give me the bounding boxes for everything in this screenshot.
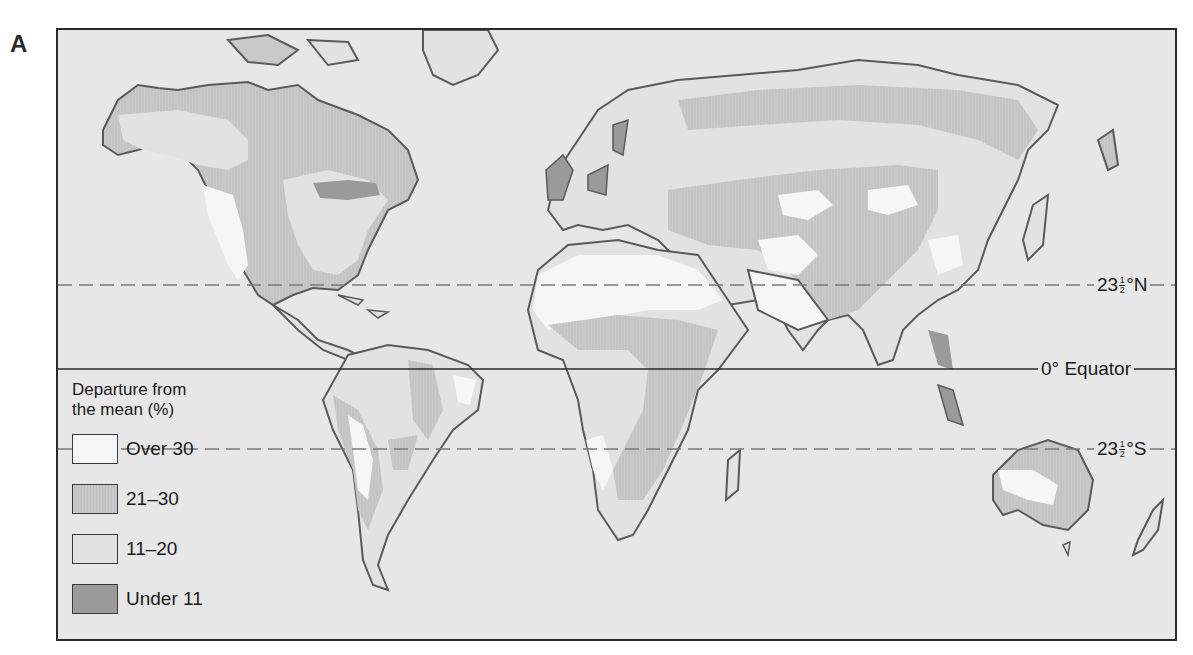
legend-label: 11–20 — [126, 538, 177, 560]
legend-label: 21–30 — [126, 488, 179, 510]
tropic-of-capricorn-label: 2312°S — [1094, 438, 1149, 460]
legend-title-line-1: Departure from — [72, 380, 186, 400]
south-america — [323, 345, 483, 590]
panel-label: A — [10, 30, 27, 58]
legend-item-21-30: 21–30 — [72, 484, 179, 514]
legend-label: Under 11 — [126, 588, 203, 610]
label-suffix: °N — [1126, 274, 1147, 295]
equator-label: 0° Equator — [1038, 358, 1134, 380]
north-america — [103, 30, 498, 360]
legend-item-under-11: Under 11 — [72, 584, 203, 614]
legend-title: Departure from the mean (%) — [72, 380, 186, 420]
label-degrees: 23 — [1097, 438, 1118, 459]
legend-item-over-30: Over 30 — [72, 434, 194, 464]
swatch-over-30 — [72, 434, 118, 464]
swatch-11-20 — [72, 534, 118, 564]
legend-item-11-20: 11–20 — [72, 534, 177, 564]
world-map-frame: 2312°N 0° Equator 2312°S Departure from … — [56, 28, 1177, 641]
legend-title-line-2: the mean (%) — [72, 400, 186, 420]
label-suffix: °S — [1126, 438, 1146, 459]
swatch-under-11 — [72, 584, 118, 614]
tropic-of-cancer-label: 2312°N — [1094, 274, 1150, 296]
swatch-21-30 — [72, 484, 118, 514]
label-degrees: 23 — [1097, 274, 1118, 295]
fraction-half: 12 — [1119, 440, 1125, 459]
fraction-half: 12 — [1119, 276, 1125, 295]
legend-label: Over 30 — [126, 438, 194, 460]
map-legend: Departure from the mean (%) Over 30 21–3… — [58, 368, 248, 641]
